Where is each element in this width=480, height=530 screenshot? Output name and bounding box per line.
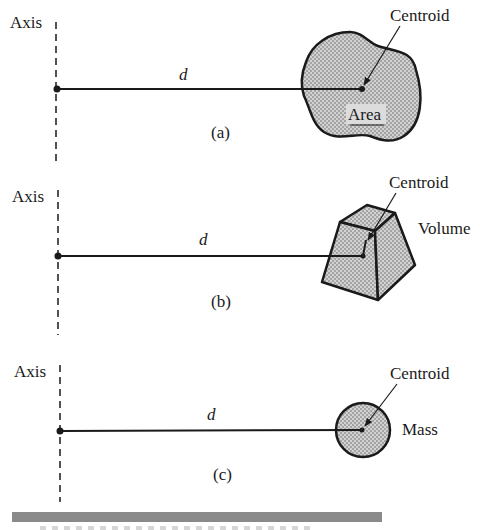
- caption-cutoff: [40, 526, 310, 530]
- distance-label-a: d: [179, 66, 188, 83]
- axis-label-c: Axis: [14, 363, 46, 380]
- axis-point-b: [55, 253, 62, 260]
- panel-b: [55, 190, 416, 335]
- volume-front-face: [322, 222, 378, 300]
- distance-label-c: d: [207, 406, 216, 423]
- panel-label-a: (a): [211, 124, 230, 141]
- shape-label-area: Area: [348, 106, 381, 123]
- axis-label-a: Axis: [10, 14, 42, 31]
- axis-point-a: [54, 86, 61, 93]
- shape-label-mass: Mass: [402, 421, 438, 438]
- axis-point-c: [57, 428, 64, 435]
- centroid-point-c: [360, 428, 365, 433]
- centroid-label-a: Centroid: [390, 7, 450, 24]
- shape-label-volume: Volume: [418, 220, 471, 237]
- panel-a: [54, 22, 421, 163]
- axis-label-b: Axis: [12, 188, 44, 205]
- centroid-point-b: [361, 254, 366, 259]
- centroid-label-c: Centroid: [390, 365, 450, 382]
- volume-side-face: [375, 213, 415, 300]
- distance-label-b: d: [199, 231, 208, 248]
- centroid-label-b: Centroid: [389, 174, 449, 191]
- distance-line-c: [60, 430, 362, 431]
- centroid-point-a: [359, 86, 365, 92]
- panel-label-b: (b): [211, 293, 231, 310]
- panel-label-c: (c): [213, 466, 232, 483]
- diagram-canvas: [0, 0, 480, 530]
- caption-divider-bar: [12, 512, 382, 522]
